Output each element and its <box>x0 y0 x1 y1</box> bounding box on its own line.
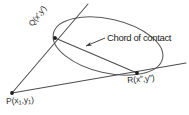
point-marker-p <box>10 91 14 95</box>
tangent-line-pq <box>12 4 88 93</box>
chord-of-contact-line <box>55 38 137 73</box>
point-marker-q <box>53 36 57 40</box>
chord-of-contact-label: Chord of contact <box>107 33 171 43</box>
point-label-p: P(x1,y1) <box>6 96 34 107</box>
chord-leader-line <box>86 38 105 46</box>
point-label-p-close: ) <box>31 95 34 105</box>
geometry-figure: Chord of contact Q(x′,y′) R(x″,y″) P(x1,… <box>0 0 189 115</box>
tangent-line-pr <box>12 63 186 93</box>
point-label-r: R(x″,y″) <box>127 74 155 85</box>
